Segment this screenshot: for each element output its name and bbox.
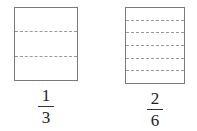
rectangle-part (126, 21, 184, 34)
fraction-numerator: 1 (40, 87, 53, 105)
rectangle-part (15, 57, 77, 80)
fraction-label-right: 2 6 (147, 90, 163, 129)
fraction-model-left: 1 3 (14, 7, 78, 126)
fraction-denominator: 3 (40, 108, 53, 126)
fraction-label-left: 1 3 (38, 87, 54, 126)
rectangle-part (15, 8, 77, 32)
rectangle-part (126, 8, 184, 21)
rectangle-part (126, 33, 184, 46)
rectangle-part (126, 71, 184, 83)
partitioned-rectangle-thirds (14, 7, 78, 81)
fraction-numerator: 2 (149, 90, 162, 108)
fraction-model-right: 2 6 (125, 7, 185, 129)
fraction-bar (38, 106, 54, 107)
fraction-diagram-canvas: 1 3 2 6 (0, 0, 197, 131)
rectangle-part (126, 59, 184, 72)
fraction-bar (147, 109, 163, 110)
rectangle-part (126, 46, 184, 59)
fraction-model-group: 1 3 2 6 (0, 0, 197, 131)
rectangle-part (15, 32, 77, 56)
partitioned-rectangle-sixths (125, 7, 185, 84)
fraction-denominator: 6 (149, 111, 162, 129)
